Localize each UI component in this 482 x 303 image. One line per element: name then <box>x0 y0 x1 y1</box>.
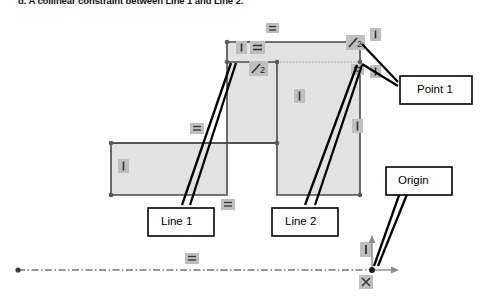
vertical-constraint-icon[interactable] <box>236 41 247 54</box>
vertex[interactable] <box>225 60 230 65</box>
vertex[interactable] <box>275 60 280 65</box>
collinear-constraint-icon[interactable]: 2 <box>249 61 268 76</box>
svg-text:2: 2 <box>260 65 265 75</box>
svg-text:2: 2 <box>357 39 362 49</box>
vertex[interactable] <box>358 193 363 198</box>
vertex[interactable] <box>275 141 280 146</box>
horizontal-constraint-icon[interactable] <box>266 23 279 33</box>
horizontal-constraint-icon[interactable] <box>190 123 204 134</box>
horizontal-constraint-icon[interactable] <box>185 253 199 264</box>
vertex[interactable] <box>358 60 363 65</box>
vertical-constraint-icon[interactable] <box>360 242 372 257</box>
sketch-canvas[interactable]: 2 2 <box>0 0 482 303</box>
vertex[interactable] <box>225 40 230 45</box>
x-axis-arrowhead <box>391 267 399 274</box>
fix-constraint-icon[interactable] <box>359 275 373 289</box>
vertical-constraint-icon[interactable] <box>118 159 129 173</box>
vertex[interactable] <box>109 193 114 198</box>
vertical-constraint-icon[interactable] <box>370 28 381 41</box>
callout-label-origin: Origin <box>398 175 429 187</box>
vertical-constraint-icon[interactable] <box>294 89 305 103</box>
construction-endpoint[interactable] <box>15 267 20 272</box>
origin-point[interactable] <box>369 267 375 273</box>
origin-marker-group[interactable] <box>15 235 399 273</box>
horizontal-constraint-icon[interactable] <box>250 41 265 54</box>
callout-label-line-2: Line 2 <box>285 216 316 228</box>
figure-root: d. A collinear constraint between Line 1… <box>0 0 482 303</box>
y-axis-arrowhead <box>369 235 376 243</box>
collinear-constraint-icon[interactable]: 2 <box>346 35 365 50</box>
callout-label-point-1: Point 1 <box>417 84 453 96</box>
callout-label-line-1: Line 1 <box>161 216 192 228</box>
vertical-constraint-icon[interactable] <box>352 119 363 133</box>
vertex[interactable] <box>109 141 114 146</box>
horizontal-constraint-icon[interactable] <box>221 199 235 210</box>
